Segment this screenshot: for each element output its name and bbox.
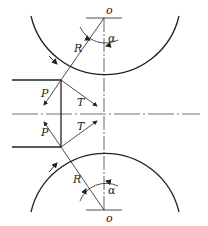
bottom-angle-label: α <box>108 184 116 197</box>
top-center-label: o <box>106 4 113 17</box>
top-angle-arrow2-icon <box>106 45 110 46</box>
bottom-angle-arrow2-icon <box>106 181 110 182</box>
top-radius-line <box>61 18 104 80</box>
top-radius-label: R <box>73 42 82 55</box>
bottom-force-t-label: T <box>77 120 86 133</box>
top-force-p-label: P <box>40 87 49 100</box>
bottom-roll-arc <box>31 153 179 212</box>
bottom-radius-label: R <box>72 173 81 186</box>
top-force-t-label: T <box>77 96 86 109</box>
bottom-force-p-label: P <box>40 126 49 139</box>
top-angle-label: α <box>108 32 116 45</box>
top-roll-arc <box>31 16 179 75</box>
rolling-mill-diagram: o o R R α α P P T T <box>0 0 208 226</box>
bottom-center-label: o <box>106 212 113 225</box>
